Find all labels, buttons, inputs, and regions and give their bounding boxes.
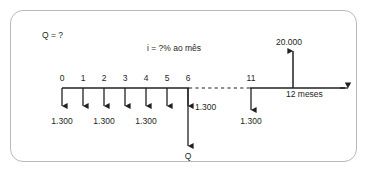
tick-label-2: 2 (102, 74, 107, 83)
installment-label-0: 1.300 (51, 117, 72, 126)
q-amount-label: Q (185, 152, 192, 161)
tick-label-3: 3 (123, 74, 128, 83)
interest-rate-label: i = ?% ao mês (147, 44, 201, 53)
tick-label-5: 5 (165, 74, 170, 83)
tick-label-1: 1 (81, 74, 86, 83)
installment-label-6: 1.300 (195, 103, 216, 112)
q-unknown-label: Q = ? (42, 31, 63, 40)
installment-label-2: 1.300 (93, 117, 114, 126)
tick-label-6: 6 (186, 74, 191, 83)
inflow-amount-label: 20.000 (276, 38, 302, 47)
tick-label-11: 11 (247, 74, 256, 83)
outflow-arrows (62, 88, 251, 110)
diagram-canvas (0, 0, 368, 174)
cash-flow-diagram: Q = ? i = ?% ao mês 20.000 12 meses 0 1 … (0, 0, 368, 174)
installment-label-4: 1.300 (135, 117, 156, 126)
installment-label-11: 1.300 (240, 117, 261, 126)
tick-label-0: 0 (60, 74, 65, 83)
axis-unit-label: 12 meses (286, 90, 323, 99)
tick-label-4: 4 (144, 74, 149, 83)
